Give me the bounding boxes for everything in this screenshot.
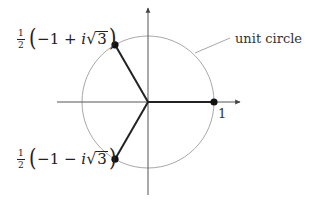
label-root-omega2: 1 2 ( −1 − i √3 ) bbox=[17, 148, 117, 170]
operator-minus: − bbox=[59, 152, 81, 167]
right-paren: ) bbox=[109, 26, 117, 50]
radical-sign: √ bbox=[86, 31, 96, 47]
radicand: 3 bbox=[96, 31, 108, 47]
left-paren: ( bbox=[29, 26, 37, 50]
left-paren: ( bbox=[29, 146, 37, 170]
fraction-denominator: 2 bbox=[18, 40, 24, 50]
right-paren: ) bbox=[109, 146, 117, 170]
fraction-numerator: 1 bbox=[17, 29, 25, 40]
fraction-numerator: 1 bbox=[17, 149, 25, 160]
spoke-root-omega2 bbox=[115, 102, 148, 159]
fraction-half: 1 2 bbox=[17, 29, 25, 50]
unit-circle-leader-line bbox=[195, 38, 230, 53]
label-unit-circle: unit circle bbox=[235, 32, 302, 45]
point-root-1 bbox=[210, 98, 217, 105]
spoke-root-omega bbox=[115, 45, 148, 102]
minus-one: −1 bbox=[37, 152, 59, 167]
fraction-half: 1 2 bbox=[17, 149, 25, 170]
sqrt-three: √3 bbox=[86, 151, 108, 167]
fraction-denominator: 2 bbox=[18, 160, 24, 170]
sqrt-three: √3 bbox=[86, 31, 108, 47]
operator-plus: + bbox=[59, 32, 81, 47]
label-root-omega: 1 2 ( −1 + i √3 ) bbox=[17, 28, 117, 50]
minus-one: −1 bbox=[37, 32, 59, 47]
label-one: 1 bbox=[218, 107, 226, 120]
radicand: 3 bbox=[96, 151, 108, 167]
radical-sign: √ bbox=[86, 151, 96, 167]
